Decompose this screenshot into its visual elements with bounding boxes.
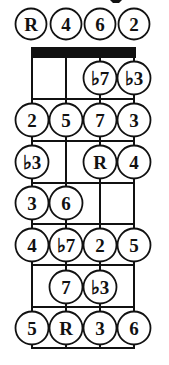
note-marker: 4 (16, 229, 49, 262)
cropped-title-fragment (110, 0, 122, 3)
note-label: 3 (129, 110, 139, 131)
fretted-notes: ♭7 ♭3 2 5 7 3 ♭3 R (16, 62, 151, 345)
note-label: 7 (61, 277, 71, 298)
note-marker: ♭3 (84, 271, 117, 304)
note-label: ♭3 (23, 152, 42, 173)
note-marker: 3 (118, 104, 151, 137)
note-label: 4 (61, 14, 71, 35)
note-label: 5 (27, 318, 37, 339)
note-label: 5 (61, 110, 71, 131)
note-label: 3 (95, 318, 105, 339)
note-label: 3 (27, 193, 37, 214)
note-marker: 7 (50, 271, 83, 304)
note-marker: ♭7 (84, 62, 117, 95)
note-marker: 6 (118, 312, 151, 345)
note-marker: 2 (119, 9, 150, 40)
note-marker: 3 (16, 187, 49, 220)
note-label: 2 (95, 235, 105, 256)
note-label: 4 (27, 235, 37, 256)
note-marker: R (84, 146, 117, 179)
note-label: ♭3 (125, 68, 144, 89)
note-marker: 5 (16, 312, 49, 345)
note-label: ♭7 (91, 68, 110, 89)
note-label: 5 (129, 235, 139, 256)
note-marker: 6 (85, 9, 116, 40)
note-label: 6 (61, 193, 71, 214)
note-marker: 4 (118, 146, 151, 179)
note-marker: 6 (50, 187, 83, 220)
frets (31, 99, 135, 348)
note-marker: ♭7 (50, 229, 83, 262)
note-marker: 5 (118, 229, 151, 262)
note-marker: R (16, 9, 47, 40)
note-marker: 5 (50, 104, 83, 137)
note-label: 7 (95, 110, 105, 131)
note-label: ♭7 (57, 235, 76, 256)
note-label: 2 (27, 110, 37, 131)
note-label: R (93, 152, 107, 173)
note-marker: 2 (84, 229, 117, 262)
note-marker: ♭3 (16, 146, 49, 179)
note-label: R (24, 14, 38, 35)
note-label: R (59, 318, 73, 339)
note-label: 2 (129, 14, 139, 35)
note-label: 4 (129, 152, 139, 173)
note-marker: ♭3 (118, 62, 151, 95)
note-marker: 2 (16, 104, 49, 137)
note-marker: 7 (84, 104, 117, 137)
note-label: 6 (95, 14, 105, 35)
fretboard-diagram: R 4 6 2 ♭7 ♭3 2 5 (0, 0, 169, 365)
open-string-notes: R 4 6 2 (16, 9, 150, 40)
note-marker: 3 (84, 312, 117, 345)
note-marker: R (50, 312, 83, 345)
note-label: ♭3 (91, 277, 110, 298)
note-marker: 4 (51, 9, 82, 40)
nut (31, 47, 136, 58)
note-label: 6 (129, 318, 139, 339)
